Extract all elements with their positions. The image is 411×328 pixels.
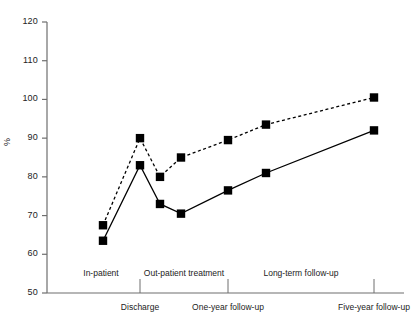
data-point-marker	[177, 209, 185, 217]
chart-container: % 5060708090100110120 In-patientOut-pati…	[0, 0, 411, 328]
series-line-solid-series	[103, 130, 374, 240]
data-point-marker	[370, 93, 378, 101]
data-point-marker	[156, 200, 164, 208]
phase-label: Long-term follow-up	[231, 268, 371, 278]
data-point-marker	[224, 186, 232, 194]
data-point-marker	[177, 153, 185, 161]
data-point-marker	[262, 169, 270, 177]
data-point-marker	[136, 134, 144, 142]
data-point-marker	[224, 136, 232, 144]
data-point-marker	[156, 173, 164, 181]
data-point-marker	[262, 120, 270, 128]
x-tick-label: Five-year follow-up	[314, 302, 411, 312]
x-tick-label: One-year follow-up	[168, 302, 288, 312]
data-point-marker	[99, 237, 107, 245]
data-point-marker	[99, 221, 107, 229]
data-point-marker	[136, 161, 144, 169]
plot-area	[0, 0, 411, 328]
data-point-marker	[370, 126, 378, 134]
